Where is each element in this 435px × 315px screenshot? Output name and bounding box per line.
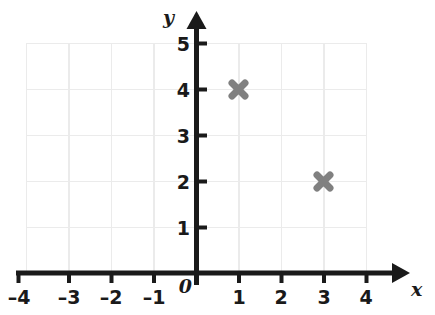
x-axis-label: x (411, 280, 422, 299)
coordinate-grid-figure: –4 –3 –2 –1 1 2 3 4 1 2 3 4 5 0 y x (0, 0, 435, 315)
y-tick-label-5: 5 (177, 35, 190, 54)
x-tick-label-neg1: –1 (143, 288, 166, 307)
x-axis-arrowhead (392, 263, 410, 283)
y-tick-label-4: 4 (177, 81, 190, 100)
data-point-marker-1 (232, 83, 245, 96)
x-tick-label-3: 3 (317, 288, 330, 307)
x-tick-label-neg3: –3 (58, 288, 81, 307)
y-tick-label-3: 3 (177, 127, 190, 146)
data-point-marker-2 (317, 175, 330, 188)
y-axis-label: y (163, 8, 174, 27)
x-axis (16, 263, 410, 283)
x-tick-label-neg4: –4 (8, 288, 31, 307)
x-tick-label-neg2: –2 (100, 288, 123, 307)
y-tick-label-1: 1 (177, 219, 190, 238)
y-axis-arrowhead (187, 11, 207, 29)
y-tick-label-2: 2 (177, 173, 190, 192)
x-tick-label-2: 2 (274, 288, 287, 307)
coordinate-plane (0, 0, 435, 315)
x-tick-label-1: 1 (232, 288, 245, 307)
x-tick-label-4: 4 (359, 288, 372, 307)
origin-label: 0 (179, 277, 192, 296)
